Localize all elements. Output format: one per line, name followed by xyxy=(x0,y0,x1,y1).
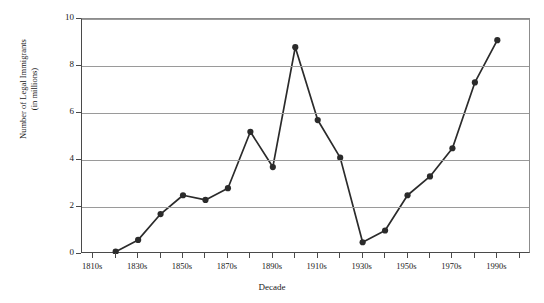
cropped-header-text xyxy=(30,0,210,6)
y-tick-label-8: 8 xyxy=(50,60,74,69)
y-tick-label-10: 10 xyxy=(50,13,74,22)
x-axis-title: Decade xyxy=(0,282,544,292)
x-tick-mark-1960s xyxy=(429,253,430,258)
data-point-1940s xyxy=(382,227,388,233)
data-point-1970s xyxy=(449,145,455,151)
x-tick-mark-1920s xyxy=(339,253,340,258)
x-tick-label-1930s: 1930s xyxy=(339,261,385,271)
x-tick-mark-1970s xyxy=(451,253,452,258)
gridline-y-6 xyxy=(82,113,529,114)
data-point-1900s xyxy=(292,44,298,50)
y-tick-label-2: 2 xyxy=(50,201,74,210)
y-tick-mark-6 xyxy=(76,112,81,113)
x-tick-mark-1850s xyxy=(182,253,183,258)
x-tick-mark-1910s xyxy=(317,253,318,258)
x-tick-mark-1930s xyxy=(362,253,363,258)
gridline-y-8 xyxy=(82,66,529,67)
y-tick-mark-0 xyxy=(76,253,81,254)
x-tick-label-1890s: 1890s xyxy=(249,261,295,271)
y-tick-mark-4 xyxy=(76,159,81,160)
immigrants-series xyxy=(82,19,531,254)
plot-area xyxy=(81,18,530,253)
data-point-1980s xyxy=(472,79,478,85)
x-tick-mark-1810s xyxy=(92,253,93,258)
x-tick-mark-1840s xyxy=(160,253,161,258)
y-axis-title: Number of Legal Immigrants (in millions) xyxy=(18,0,40,184)
y-tick-label-0: 0 xyxy=(50,248,74,257)
x-tick-mark-1880s xyxy=(249,253,250,258)
data-point-1860s xyxy=(202,197,208,203)
immigration-line-chart: Number of Legal Immigrants (in millions)… xyxy=(0,0,544,303)
x-tick-mark-1940s xyxy=(384,253,385,258)
series-markers xyxy=(113,37,501,254)
x-tick-mark-1950s xyxy=(407,253,408,258)
gridline-y-10 xyxy=(82,19,529,20)
x-tick-mark-1860s xyxy=(204,253,205,258)
x-tick-label-1990s: 1990s xyxy=(473,261,519,271)
x-tick-mark-1890s xyxy=(272,253,273,258)
y-tick-label-6: 6 xyxy=(50,107,74,116)
y-tick-mark-2 xyxy=(76,206,81,207)
gridline-y-2 xyxy=(82,207,529,208)
data-point-1950s xyxy=(404,192,410,198)
y-tick-mark-10 xyxy=(76,18,81,19)
data-point-1960s xyxy=(427,173,433,179)
x-tick-label-1850s: 1850s xyxy=(159,261,205,271)
x-tick-mark-1830s xyxy=(137,253,138,258)
data-point-1830s xyxy=(135,237,141,243)
x-tick-label-1830s: 1830s xyxy=(114,261,160,271)
x-tick-label-1810s: 1810s xyxy=(69,261,115,271)
x-tick-label-1910s: 1910s xyxy=(294,261,340,271)
x-tick-mark-1870s xyxy=(227,253,228,258)
y-tick-mark-8 xyxy=(76,65,81,66)
x-tick-mark-1900s xyxy=(294,253,295,258)
x-tick-mark-1980s xyxy=(474,253,475,258)
x-tick-mark-2000s xyxy=(519,253,520,258)
x-tick-label-1870s: 1870s xyxy=(204,261,250,271)
data-point-1990s xyxy=(494,37,500,43)
y-axis-title-line1: Number of Legal Immigrants xyxy=(18,0,29,184)
gridline-y-4 xyxy=(82,160,529,161)
y-axis-title-line2: (in millions) xyxy=(29,0,40,184)
data-point-1930s xyxy=(360,239,366,245)
y-tick-label-4: 4 xyxy=(50,154,74,163)
x-tick-mark-1820s xyxy=(115,253,116,258)
data-point-1870s xyxy=(225,185,231,191)
series-line xyxy=(116,40,498,252)
data-point-1840s xyxy=(157,211,163,217)
data-point-1850s xyxy=(180,192,186,198)
x-tick-mark-1990s xyxy=(496,253,497,258)
x-tick-label-1970s: 1970s xyxy=(428,261,474,271)
data-point-1880s xyxy=(247,129,253,135)
data-point-1890s xyxy=(270,164,276,170)
x-tick-label-1950s: 1950s xyxy=(384,261,430,271)
data-point-1910s xyxy=(315,117,321,123)
